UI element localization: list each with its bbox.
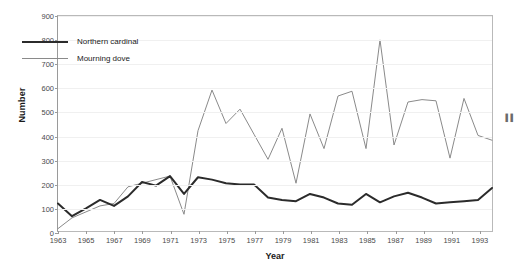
y-tick-mark	[55, 112, 58, 113]
x-tick-mark	[58, 231, 59, 234]
legend-item-mourning-dove: Mourning dove	[22, 50, 138, 67]
gridline	[58, 137, 492, 138]
y-axis-title: Number	[17, 65, 27, 145]
x-tick-label: 1981	[303, 236, 320, 245]
y-tick-label: 100	[41, 204, 54, 213]
y-tick-mark	[55, 16, 58, 17]
x-tick-label: 1985	[359, 236, 376, 245]
x-tick-label: 1991	[443, 236, 460, 245]
x-tick-mark	[311, 231, 312, 234]
gridline	[58, 112, 492, 113]
gridline	[58, 185, 492, 186]
x-tick-label: 1987	[387, 236, 404, 245]
series-line-northern-cardinal	[58, 176, 492, 216]
x-tick-label: 1973	[190, 236, 207, 245]
y-tick-mark	[55, 161, 58, 162]
x-tick-mark	[424, 231, 425, 234]
gridline	[58, 161, 492, 162]
chart-screenshot: Number 010020030040050060070080090019631…	[0, 0, 514, 270]
x-tick-mark	[339, 231, 340, 234]
chart-legend: Northern cardinal Mourning dove	[22, 33, 138, 67]
legend-line-icon-dove	[22, 58, 68, 59]
legend-line-icon-cardinal	[22, 41, 68, 43]
x-tick-label: 1989	[415, 236, 432, 245]
x-tick-label: 1993	[472, 236, 489, 245]
legend-label-mourning-dove: Mourning dove	[77, 54, 130, 63]
y-tick-label: 500	[41, 108, 54, 117]
y-tick-mark	[55, 137, 58, 138]
x-tick-label: 1967	[106, 236, 123, 245]
x-tick-label: 1965	[78, 236, 95, 245]
legend-item-northern-cardinal: Northern cardinal	[22, 33, 138, 50]
line-chart-figure: Number 010020030040050060070080090019631…	[0, 0, 514, 270]
x-tick-mark	[227, 231, 228, 234]
gridline	[58, 209, 492, 210]
x-tick-mark	[114, 231, 115, 234]
y-tick-label: 600	[41, 84, 54, 93]
x-tick-mark	[255, 231, 256, 234]
y-tick-mark	[55, 209, 58, 210]
x-tick-mark	[367, 231, 368, 234]
clipped-edge-text: ▐▐▐▐▐▐▐▐	[503, 113, 514, 123]
legend-label-northern-cardinal: Northern cardinal	[77, 37, 138, 46]
x-tick-label: 1983	[331, 236, 348, 245]
x-tick-mark	[396, 231, 397, 234]
x-tick-label: 1963	[50, 236, 67, 245]
x-tick-mark	[283, 231, 284, 234]
x-tick-label: 1979	[275, 236, 292, 245]
x-tick-label: 1975	[218, 236, 235, 245]
x-tick-mark	[199, 231, 200, 234]
y-tick-mark	[55, 185, 58, 186]
y-tick-mark	[55, 88, 58, 89]
x-tick-label: 1977	[247, 236, 264, 245]
x-tick-mark	[480, 231, 481, 234]
x-tick-label: 1969	[134, 236, 151, 245]
x-tick-mark	[171, 231, 172, 234]
x-axis-title: Year	[57, 251, 493, 261]
x-tick-mark	[86, 231, 87, 234]
x-tick-mark	[142, 231, 143, 234]
x-tick-label: 1971	[162, 236, 179, 245]
gridline	[58, 88, 492, 89]
y-tick-label: 200	[41, 180, 54, 189]
y-tick-label: 900	[41, 12, 54, 21]
gridline	[58, 16, 492, 17]
y-tick-label: 400	[41, 132, 54, 141]
y-tick-label: 300	[41, 156, 54, 165]
x-tick-mark	[452, 231, 453, 234]
